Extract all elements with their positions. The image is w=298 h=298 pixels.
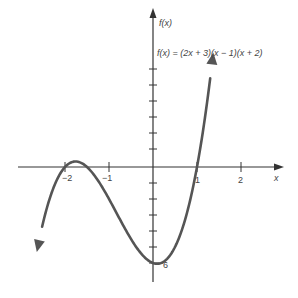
x-axis-label: x — [273, 173, 279, 183]
y-ticks — [149, 69, 163, 263]
equation-label: f(x) = (2x + 3)(x − 1)(x + 2) — [157, 48, 263, 58]
tick-label-1: 1 — [195, 175, 200, 185]
y-intercept-label: 6 — [163, 260, 168, 270]
curve-arrow-left-icon — [34, 239, 45, 252]
y-axis-arrow-icon — [150, 8, 157, 18]
tick-label-neg1: −1 — [102, 173, 112, 183]
function-plot: f(x) f(x) = (2x + 3)(x − 1)(x + 2) x −2 … — [0, 0, 298, 298]
x-axis-arrow-icon — [274, 164, 284, 171]
function-curve — [42, 78, 210, 263]
tick-label-neg2: −2 — [62, 173, 72, 183]
y-axis-label: f(x) — [159, 18, 172, 28]
tick-label-2: 2 — [238, 175, 243, 185]
chart-container: f(x) f(x) = (2x + 3)(x − 1)(x + 2) x −2 … — [0, 0, 298, 298]
